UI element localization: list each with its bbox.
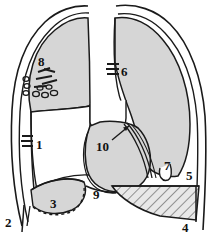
label-4: 4 xyxy=(182,220,189,235)
effusion-region xyxy=(112,186,199,220)
label-7: 7 xyxy=(164,158,171,173)
label-3: 3 xyxy=(50,196,57,211)
label-6: 6 xyxy=(121,64,128,79)
label-10: 10 xyxy=(96,139,109,154)
label-9: 9 xyxy=(93,187,100,202)
diagram-canvas: 1 2 3 4 5 6 7 8 9 10 xyxy=(0,0,219,236)
heart-shadow xyxy=(85,121,150,192)
left-costophrenic-tip xyxy=(22,205,24,232)
label-1: 1 xyxy=(36,137,43,152)
label-2: 2 xyxy=(5,215,12,230)
chest-radiograph-diagram: 1 2 3 4 5 6 7 8 9 10 xyxy=(0,0,219,236)
label-8: 8 xyxy=(38,54,45,69)
pleural-effusion-hatched xyxy=(112,186,199,220)
label-5: 5 xyxy=(186,168,193,183)
